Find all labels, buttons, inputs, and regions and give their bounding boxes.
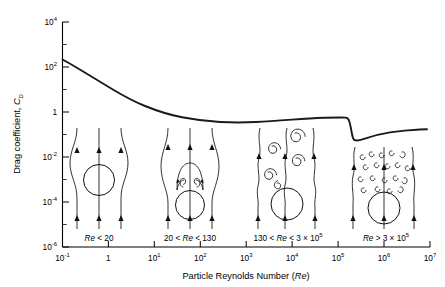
regime-label: Re > 3 × 105	[363, 232, 410, 243]
regime-label: Re < 20	[85, 234, 114, 243]
chart-background	[0, 0, 445, 287]
regime-label: 20 < Re < 130	[164, 234, 216, 243]
chart-figure: 104 102 1 10-2 10-4 10-6 10-1 1 101 102 …	[0, 0, 445, 287]
x-tick-label: 1	[106, 253, 111, 263]
regime-label: 130 < Re < 3 × 105	[253, 232, 323, 243]
x-axis-title: Particle Reynolds Number (Re)	[182, 271, 309, 281]
y-axis-title: Drag coefficient, CD	[12, 93, 24, 173]
drag-coefficient-chart: 104 102 1 10-2 10-4 10-6 10-1 1 101 102 …	[0, 0, 445, 287]
y-tick-label: 1	[52, 107, 57, 117]
